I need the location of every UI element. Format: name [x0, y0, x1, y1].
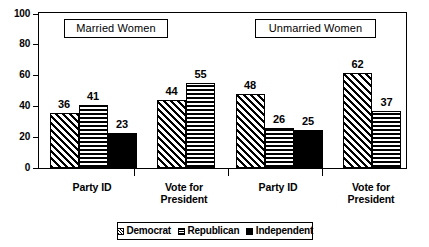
x-axis-category-label: Vote forPresident [140, 181, 228, 205]
bar-value-label: 62 [337, 59, 378, 70]
bar-republican [265, 128, 294, 168]
panel-title-unmarried: Unmarried Women [255, 19, 376, 38]
bar-chart: 100806040200 36412344554826256237 Party … [0, 0, 429, 247]
bar-republican [186, 83, 215, 168]
chart-legend: DemocratRepublicanIndependent [117, 222, 313, 240]
bar-democrat [343, 73, 372, 168]
y-axis-tick-mark [33, 137, 38, 138]
y-axis-tick-mark [33, 44, 38, 45]
y-axis-tick-mark [33, 106, 38, 107]
legend-item-independent: Independent [246, 226, 313, 236]
y-axis-tick-label: 40 [4, 101, 30, 111]
legend-item-republican: Republican [178, 226, 239, 236]
legend-item-label: Democrat [126, 226, 171, 236]
y-axis-tick-label: 80 [4, 39, 30, 49]
bar-democrat [50, 113, 79, 168]
bar-democrat [157, 100, 186, 168]
legend-item-label: Republican [187, 226, 239, 236]
bar-independent [108, 133, 137, 168]
x-axis-group-separator [228, 169, 229, 176]
x-axis-category-label: Vote forPresident [327, 181, 415, 205]
y-axis-tick-mark [33, 14, 38, 15]
bar-value-label: 48 [230, 80, 271, 91]
panel-title-married: Married Women [64, 19, 168, 38]
legend-item-label: Independent [256, 226, 313, 236]
bar-value-label: 23 [102, 119, 143, 130]
bar-value-label: 41 [73, 91, 114, 102]
x-axis-category-label: Party ID [48, 181, 136, 193]
y-axis-tick-label: 20 [4, 132, 30, 142]
bar-value-label: 37 [366, 97, 407, 108]
y-axis-tick-mark [33, 75, 38, 76]
bar-value-label: 55 [180, 69, 221, 80]
y-axis-tick-mark [33, 168, 38, 169]
bar-republican [79, 105, 108, 168]
y-axis-tick-label: 0 [4, 163, 30, 173]
legend-swatch-icon [117, 228, 124, 235]
bar-democrat [236, 94, 265, 168]
y-axis-tick-label: 100 [4, 9, 30, 19]
legend-swatch-icon [246, 228, 253, 235]
x-axis-group-separator [134, 169, 135, 176]
legend-swatch-icon [178, 228, 185, 235]
y-axis: 100806040200 [0, 0, 30, 247]
bar-value-label: 25 [288, 116, 329, 127]
bar-independent [294, 130, 323, 169]
y-axis-tick-label: 60 [4, 70, 30, 80]
bar-republican [372, 111, 401, 168]
x-axis-category-label: Party ID [234, 181, 322, 193]
legend-item-democrat: Democrat [117, 226, 171, 236]
x-axis-group-separator [322, 169, 323, 176]
